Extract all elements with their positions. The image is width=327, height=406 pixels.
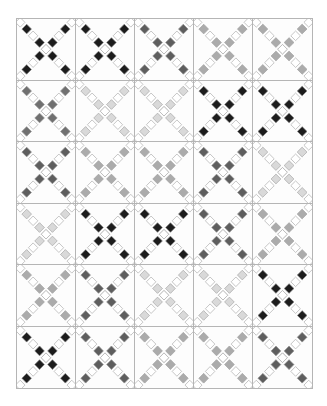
chain-x-icon (17, 19, 75, 80)
chain-x-icon (135, 81, 193, 142)
quilt-block (17, 204, 76, 266)
quilt-block (76, 265, 135, 327)
quilt-block (194, 204, 253, 266)
quilt-block (76, 204, 135, 266)
quilt-block (194, 81, 253, 143)
quilt-block (76, 142, 135, 204)
chain-x-icon (135, 327, 193, 389)
chain-x-icon (194, 327, 252, 389)
chain-x-icon (76, 265, 134, 326)
quilt-block (253, 142, 312, 204)
quilt-block (17, 81, 76, 143)
quilt-block (253, 204, 312, 266)
quilt-block (17, 327, 76, 389)
quilt-block (17, 142, 76, 204)
chain-x-icon (17, 265, 75, 326)
chain-x-icon (17, 142, 75, 203)
chain-x-icon (194, 19, 252, 80)
chain-x-icon (76, 204, 134, 265)
quilt-block (194, 19, 253, 81)
chain-x-icon (17, 204, 75, 265)
chain-x-icon (194, 265, 252, 326)
chain-x-icon (253, 142, 312, 203)
chain-x-icon (253, 327, 312, 389)
chain-x-icon (253, 204, 312, 265)
quilt-block (253, 19, 312, 81)
quilt-block (253, 81, 312, 143)
quilt-block (135, 142, 194, 204)
quilt-block (135, 81, 194, 143)
chain-x-icon (135, 19, 193, 80)
quilt-block (17, 19, 76, 81)
chain-x-icon (194, 204, 252, 265)
chain-x-icon (253, 19, 312, 80)
chain-x-icon (135, 265, 193, 326)
quilt-block (76, 81, 135, 143)
quilt-block (76, 19, 135, 81)
quilt-block (194, 265, 253, 327)
quilt-block (135, 204, 194, 266)
quilt-block (253, 327, 312, 389)
quilt-block (135, 265, 194, 327)
quilt-block (194, 327, 253, 389)
quilt-grid (16, 18, 313, 389)
chain-x-icon (76, 142, 134, 203)
chain-x-icon (253, 265, 312, 326)
quilt-block (76, 327, 135, 389)
quilt-block (135, 19, 194, 81)
chain-x-icon (253, 81, 312, 142)
chain-x-icon (76, 81, 134, 142)
quilt-block (17, 265, 76, 327)
chain-x-icon (194, 81, 252, 142)
chain-x-icon (17, 327, 75, 389)
chain-x-icon (194, 142, 252, 203)
chain-x-icon (135, 142, 193, 203)
chain-x-icon (76, 19, 134, 80)
chain-x-icon (135, 204, 193, 265)
chain-x-icon (76, 327, 134, 389)
chain-x-icon (17, 81, 75, 142)
quilt-block (135, 327, 194, 389)
quilt-block (194, 142, 253, 204)
quilt-block (253, 265, 312, 327)
